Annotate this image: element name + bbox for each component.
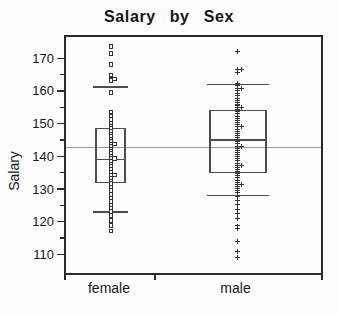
female-data-point — [109, 63, 113, 67]
boxplot-canvas: 110120130140150160170 — [0, 0, 338, 316]
female-data-point — [109, 209, 113, 213]
female-data-point — [109, 203, 113, 207]
female-data-point — [113, 173, 117, 177]
y-tick-label: 140 — [32, 149, 54, 164]
female-data-point — [109, 229, 113, 233]
salary-by-sex-figure: Salary by Sex Salary 1101201301401501601… — [0, 0, 338, 316]
female-data-point — [109, 214, 113, 218]
female-data-point — [109, 114, 113, 118]
female-data-point — [109, 224, 113, 228]
female-data-point — [113, 157, 117, 161]
y-tick-label: 110 — [33, 247, 54, 262]
female-data-point — [109, 200, 113, 204]
female-data-point — [109, 79, 113, 83]
female-data-point — [109, 52, 113, 56]
female-data-point — [113, 77, 117, 81]
y-tick-label: 160 — [32, 83, 54, 98]
female-data-point — [113, 142, 117, 146]
y-tick-label: 120 — [32, 214, 54, 229]
female-data-point — [109, 45, 113, 49]
female-data-point — [109, 189, 113, 193]
female-data-point — [109, 192, 113, 196]
female-data-point — [109, 73, 113, 77]
female-data-point — [109, 219, 113, 223]
plot-frame — [65, 36, 322, 274]
y-tick-label: 130 — [32, 182, 54, 197]
category-label-female: female — [88, 280, 130, 296]
category-label-male: male — [220, 280, 250, 296]
y-tick-label: 170 — [32, 51, 54, 66]
y-tick-label: 150 — [32, 116, 54, 131]
female-data-point — [109, 196, 113, 200]
female-data-point — [109, 110, 113, 114]
female-data-point — [109, 185, 113, 189]
female-data-point — [109, 90, 113, 94]
